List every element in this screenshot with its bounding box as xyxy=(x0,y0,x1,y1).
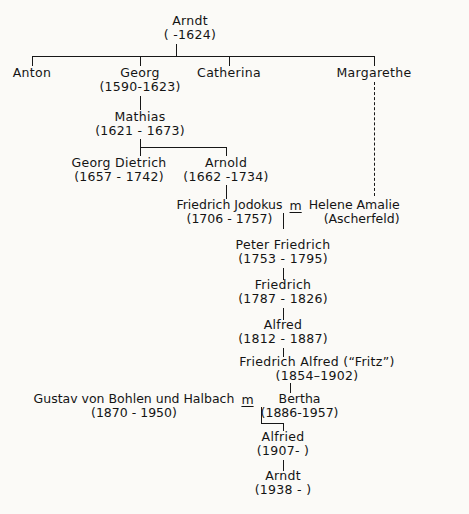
person-alfried: Alfried (1907- ) xyxy=(257,430,309,457)
person-mathias: Mathias (1621 - 1673) xyxy=(95,110,185,137)
marriage-symbol: m xyxy=(234,392,260,407)
person-name: Alfried xyxy=(257,430,309,444)
person-name: Friedrich Jodokus xyxy=(176,198,282,212)
person-peter-friedrich: Peter Friedrich (1753 - 1795) xyxy=(236,238,331,265)
person-dates: (1938 - ) xyxy=(255,483,312,497)
person-arnold: Arnold (1662 -1734) xyxy=(183,156,268,183)
person-dates: (1621 - 1673) xyxy=(95,124,185,138)
person-dates: ( -1624) xyxy=(164,28,216,42)
person-georg-dietrich: Georg Dietrich (1657 - 1742) xyxy=(71,156,166,183)
person-name: Mathias xyxy=(95,110,185,124)
person-friedrich: Friedrich (1787 - 1826) xyxy=(238,278,328,305)
person-dates: (1657 - 1742) xyxy=(71,170,166,184)
person-name: Catherina xyxy=(197,66,261,80)
person-alfred: Alfred (1812 - 1887) xyxy=(238,318,328,345)
person-dates: (1812 - 1887) xyxy=(238,332,328,346)
person-dates: (1590-1623) xyxy=(99,80,180,94)
person-dates: (1886-1957) xyxy=(261,406,339,420)
connector-dashed-margarethe-to-helene xyxy=(374,82,375,196)
person-name: Gustav von Bohlen und Halbach xyxy=(34,392,235,406)
connector-marriage-gustav-descent xyxy=(261,407,262,423)
person-anton: Anton xyxy=(13,66,51,80)
person-friedrich-jodokus: Friedrich Jodokus (1706 - 1757) xyxy=(176,198,282,225)
person-dates: (1854–1902) xyxy=(239,369,394,383)
person-bertha: Bertha (1886-1957) xyxy=(261,392,339,419)
family-tree-diagram: Arndt ( -1624) Anton Georg (1590-1623) C… xyxy=(0,0,469,514)
person-name: Margarethe xyxy=(336,66,411,80)
person-dates: (1787 - 1826) xyxy=(238,292,328,306)
marriage-gustav-bertha: Gustav von Bohlen und Halbach (1870 - 19… xyxy=(34,392,339,419)
marriage-jodokus-helene: Friedrich Jodokus (1706 - 1757) m Helene… xyxy=(176,198,399,225)
person-dates: (1662 -1734) xyxy=(183,170,268,184)
person-dates: (1706 - 1757) xyxy=(176,212,282,226)
person-dates: (1870 - 1950) xyxy=(34,406,235,420)
person-name: Bertha xyxy=(261,392,339,406)
connector-sibling-bar-gen4 xyxy=(140,147,226,148)
person-name: Friedrich Alfred (“Fritz”) xyxy=(239,355,394,369)
connector-arndt-stem xyxy=(176,44,177,56)
person-name: Alfred xyxy=(238,318,328,332)
person-helene-amalie: Helene Amalie (Ascherfeld) xyxy=(309,198,400,225)
person-margarethe: Margarethe xyxy=(336,66,411,80)
person-dates: (1753 - 1795) xyxy=(236,252,331,266)
person-name: Arndt xyxy=(164,14,216,28)
connector-elbow-to-alfried xyxy=(261,423,283,424)
connector-mathias-stem xyxy=(140,139,141,147)
connector-marriage-jodokus-descent xyxy=(283,213,284,229)
marriage-symbol: m xyxy=(283,198,309,213)
person-name: Anton xyxy=(13,66,51,80)
person-arndt-younger: Arndt (1938 - ) xyxy=(255,469,312,496)
person-name: Georg Dietrich xyxy=(71,156,166,170)
person-georg: Georg (1590-1623) xyxy=(99,66,180,93)
person-name: Georg xyxy=(99,66,180,80)
person-name: Peter Friedrich xyxy=(236,238,331,252)
person-catherina: Catherina xyxy=(197,66,261,80)
person-name: Arnold xyxy=(183,156,268,170)
person-name: Helene Amalie xyxy=(309,198,400,212)
person-gustav-von-bohlen-und-halbach: Gustav von Bohlen und Halbach (1870 - 19… xyxy=(34,392,235,419)
connector-georg-to-mathias xyxy=(140,96,141,110)
person-arndt-elder: Arndt ( -1624) xyxy=(164,14,216,41)
person-friedrich-alfred: Friedrich Alfred (“Fritz”) (1854–1902) xyxy=(239,355,394,382)
connector-sibling-bar-gen2 xyxy=(32,56,374,57)
person-name: Arndt xyxy=(255,469,312,483)
person-dates: (Ascherfeld) xyxy=(309,212,400,226)
person-dates: (1907- ) xyxy=(257,444,309,458)
person-name: Friedrich xyxy=(238,278,328,292)
